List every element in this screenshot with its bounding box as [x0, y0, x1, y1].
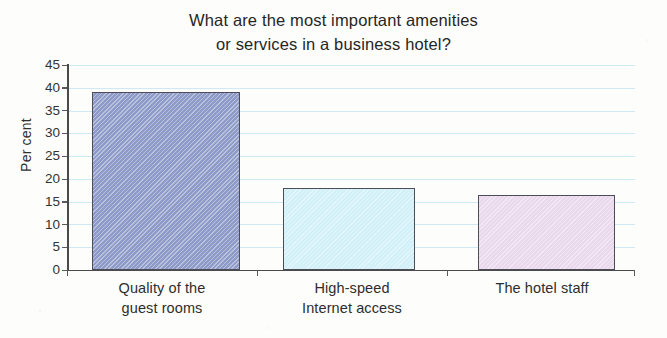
- y-tick-label-0: 0: [34, 263, 60, 277]
- bar-hatch-pattern: [479, 196, 614, 269]
- y-axis-line: [67, 64, 69, 271]
- bar-high-speed-internet-access[interactable]: [283, 188, 415, 270]
- plot-area: [68, 65, 635, 270]
- x-tick-mark-1: [257, 270, 258, 276]
- y-axis-tick-labels: 45 40 35 30 25 20 15 10 5 0: [28, 0, 60, 338]
- x-axis-label-2: The hotel staff: [452, 278, 632, 298]
- bar-quality-of-the-guest-rooms[interactable]: [92, 92, 240, 270]
- x-axis-line: [67, 270, 635, 272]
- y-tick-label-35: 35: [34, 104, 60, 118]
- x-tick-mark-start: [67, 270, 68, 276]
- y-tick-label-15: 15: [34, 195, 60, 209]
- y-tick-label-25: 25: [34, 149, 60, 163]
- y-tick-label-45: 45: [34, 58, 60, 72]
- gridline-40: [68, 88, 635, 89]
- y-tick-label-30: 30: [34, 126, 60, 140]
- x-axis-label-0: Quality of the guest rooms: [72, 278, 252, 318]
- chart-title: What are the most important amenities or…: [0, 8, 667, 56]
- x-axis-label-1: High-speed Internet access: [262, 278, 442, 318]
- y-tick-label-40: 40: [34, 81, 60, 95]
- bar-hatch-pattern: [93, 93, 239, 269]
- y-tick-label-10: 10: [34, 218, 60, 232]
- x-tick-mark-2: [447, 270, 448, 276]
- bar-the-hotel-staff[interactable]: [478, 195, 615, 270]
- bar-chart: What are the most important amenities or…: [0, 0, 667, 338]
- gridline-45: [68, 65, 635, 66]
- y-tick-label-20: 20: [34, 172, 60, 186]
- y-tick-label-5: 5: [34, 240, 60, 254]
- bar-hatch-pattern: [284, 189, 414, 269]
- x-tick-mark-end: [634, 270, 635, 276]
